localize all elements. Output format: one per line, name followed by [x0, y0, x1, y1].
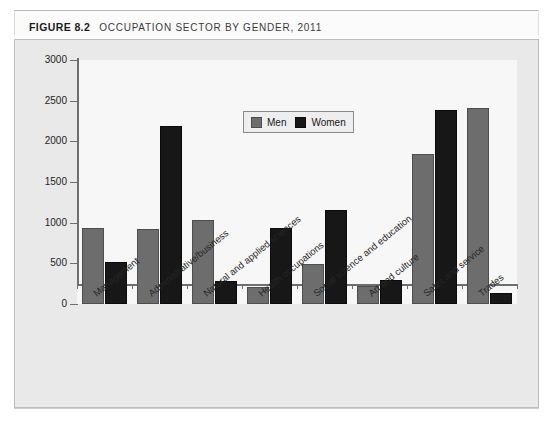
legend-swatch-men-icon: [251, 117, 262, 128]
bar-men-7: [467, 108, 489, 304]
y-axis-tick-label: 1500: [23, 176, 67, 187]
x-axis-tick: [517, 284, 518, 289]
bar-women-7: [490, 293, 512, 304]
y-axis-tick-label: 3000: [23, 54, 67, 65]
y-axis-tick-label: 0: [23, 298, 67, 309]
figure-header-text: FIGURE 8.2OCCUPATION SECTOR BY GENDER, 2…: [29, 17, 322, 35]
figure-container: FIGURE 8.2OCCUPATION SECTOR BY GENDER, 2…: [0, 0, 554, 426]
figure-number: FIGURE 8.2: [29, 21, 90, 33]
legend-swatch-women-icon: [295, 117, 306, 128]
chart-frame: 050010001500200025003000 ManagementAdmin…: [14, 39, 539, 408]
y-axis-tick-label: 500: [23, 257, 67, 268]
y-axis-tick: [70, 304, 78, 305]
y-axis-tick-label: 2000: [23, 135, 67, 146]
figure-title: OCCUPATION SECTOR BY GENDER, 2011: [99, 22, 322, 33]
y-axis-tick-label: 2500: [23, 95, 67, 106]
legend-label-men: Men: [267, 117, 286, 128]
y-axis-tick-label: 1000: [23, 217, 67, 228]
legend-item-men: Men: [251, 117, 286, 128]
figure-header-band: FIGURE 8.2OCCUPATION SECTOR BY GENDER, 2…: [14, 10, 539, 36]
legend-label-women: Women: [311, 117, 345, 128]
chart-legend: Men Women: [243, 111, 354, 133]
legend-item-women: Women: [295, 117, 345, 128]
